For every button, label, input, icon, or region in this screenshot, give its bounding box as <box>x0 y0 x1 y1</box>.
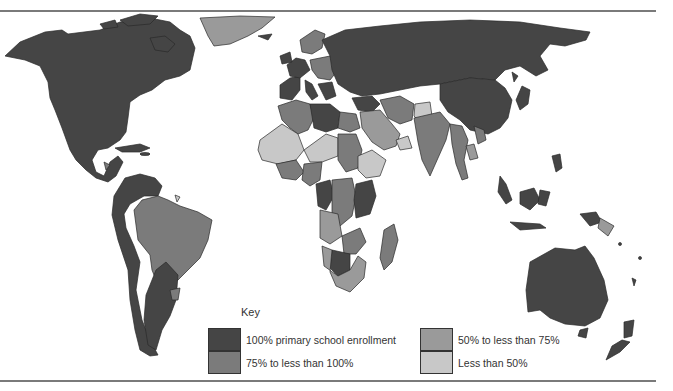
legend-label-75-100pct: 75% to less than 100% <box>246 357 353 369</box>
legend: Key 100% primary school enrollment 75% t… <box>208 306 648 378</box>
legend-item-100pct: 100% primary school enrollment <box>208 328 396 351</box>
swatch-50-75pct <box>420 328 453 351</box>
legend-item-50-75pct: 50% to less than 75% <box>420 328 560 351</box>
swatch-75-100pct <box>208 351 241 374</box>
bottom-rule <box>0 380 656 382</box>
swatch-100pct <box>208 328 241 351</box>
swatch-under-50pct <box>420 351 453 374</box>
legend-item-under-50pct: Less than 50% <box>420 351 527 374</box>
legend-label-under-50pct: Less than 50% <box>458 357 527 369</box>
south-america <box>112 174 212 356</box>
greenland <box>200 16 275 46</box>
legend-label-50-75pct: 50% to less than 75% <box>458 334 560 346</box>
legend-item-75-100pct: 75% to less than 100% <box>208 351 353 374</box>
legend-label-100pct: 100% primary school enrollment <box>246 334 396 346</box>
north-america <box>5 14 195 182</box>
legend-title: Key <box>241 306 260 318</box>
